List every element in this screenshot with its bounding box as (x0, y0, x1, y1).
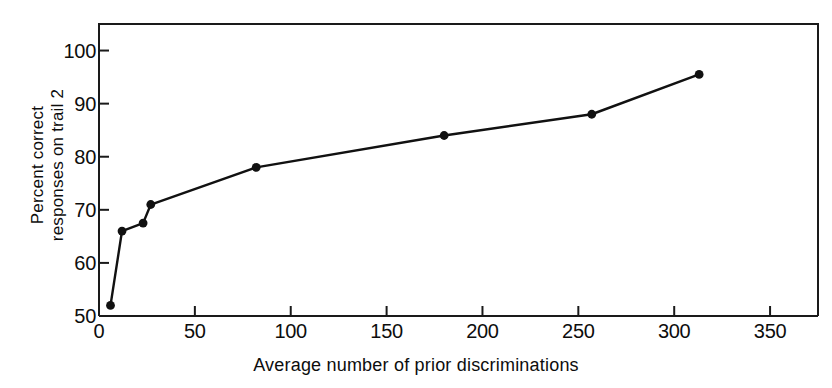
x-axis-tick-labels: 050100150200250300350 (0, 320, 832, 350)
data-point-marker (695, 70, 704, 79)
x-axis-tick-label: 250 (562, 320, 594, 343)
x-axis-title: Average number of prior discriminations (0, 355, 832, 376)
data-point-marker (106, 301, 115, 310)
data-point-marker (146, 200, 155, 209)
data-line (111, 74, 700, 305)
x-axis-tick-label: 200 (466, 320, 498, 343)
chart-figure: Percent correct responses on trail 2 506… (0, 0, 832, 388)
x-axis-tick-label: 150 (370, 320, 402, 343)
plot-frame (99, 24, 818, 316)
data-point-marker (139, 219, 148, 228)
data-point-marker (587, 110, 596, 119)
data-line-path (111, 74, 700, 305)
data-point-marker (440, 131, 449, 140)
x-axis-tick-label: 0 (94, 320, 105, 343)
data-point-marker (118, 227, 127, 236)
x-axis-tick-label: 50 (184, 320, 206, 343)
x-axis-tick-label: 100 (274, 320, 306, 343)
plot-frame-spines (99, 24, 818, 316)
data-point-marker (252, 163, 261, 172)
x-axis-tick-label: 300 (658, 320, 690, 343)
axis-ticks (99, 51, 770, 316)
x-axis-tick-label: 350 (754, 320, 786, 343)
